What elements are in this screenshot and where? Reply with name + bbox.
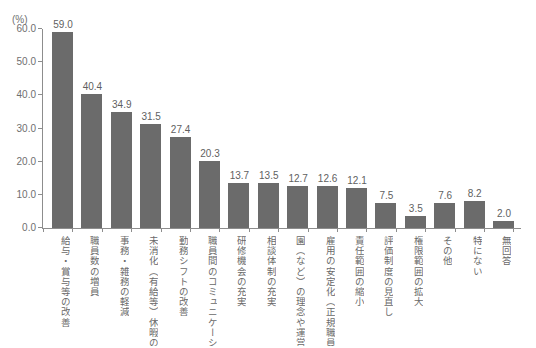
bar bbox=[81, 94, 102, 228]
x-axis-tick-mark bbox=[190, 228, 191, 232]
bar-group: 13.5 bbox=[254, 29, 284, 228]
category-label: 事務・雑務の軽減 bbox=[115, 236, 129, 346]
x-axis-tick-mark bbox=[131, 228, 132, 232]
category-label: 未消化（有給等）休暇の改善 bbox=[144, 236, 158, 346]
bar bbox=[464, 201, 485, 228]
bar bbox=[228, 183, 249, 228]
y-axis-tick-mark bbox=[38, 227, 42, 228]
bar bbox=[493, 221, 514, 228]
bar bbox=[346, 188, 367, 228]
bar-group: 27.4 bbox=[166, 29, 196, 228]
x-axis-tick-mark bbox=[484, 228, 485, 232]
bar bbox=[170, 137, 191, 228]
x-axis-tick-mark bbox=[455, 228, 456, 232]
x-axis-tick-mark bbox=[43, 228, 44, 232]
x-axis-tick-mark bbox=[366, 228, 367, 232]
bar bbox=[375, 203, 396, 228]
y-axis-tick-label: 30.0 bbox=[17, 123, 36, 135]
bar-group: 8.2 bbox=[460, 29, 490, 228]
bar-group: 34.9 bbox=[107, 29, 137, 228]
y-axis-tick-mark bbox=[38, 194, 42, 195]
category-label: 無回答 bbox=[497, 236, 511, 346]
y-axis-tick: 0.0 bbox=[0, 222, 42, 234]
y-axis-tick-label: 10.0 bbox=[17, 189, 36, 201]
x-axis-line bbox=[42, 228, 521, 229]
bar bbox=[287, 186, 308, 228]
bar-group: 40.4 bbox=[77, 29, 107, 228]
y-axis-tick: 30.0 bbox=[0, 123, 42, 135]
y-axis-tick-mark bbox=[38, 128, 42, 129]
x-axis-tick-mark bbox=[513, 228, 514, 232]
x-axis-tick-mark bbox=[308, 228, 309, 232]
plot-area: 59.040.434.931.527.420.313.713.512.712.6… bbox=[43, 29, 521, 228]
bar bbox=[434, 203, 455, 228]
bar-value-label: 2.0 bbox=[483, 208, 525, 219]
y-axis-tick-mark bbox=[38, 61, 42, 62]
x-axis-tick-mark bbox=[219, 228, 220, 232]
bar-group: 13.7 bbox=[224, 29, 254, 228]
category-label: 職員間のコミュニケーション bbox=[203, 236, 217, 346]
x-axis-tick-mark bbox=[102, 228, 103, 232]
category-label: 給与・賞与等の改善 bbox=[56, 236, 70, 346]
y-axis-tick-mark bbox=[38, 161, 42, 162]
y-axis-tick: 60.0 bbox=[0, 23, 42, 35]
x-axis-tick-mark bbox=[161, 228, 162, 232]
bar-group: 59.0 bbox=[48, 29, 78, 228]
category-label: 責任範囲の縮小 bbox=[350, 236, 364, 346]
category-label: 研修機会の充実 bbox=[232, 236, 246, 346]
x-axis-tick-mark bbox=[278, 228, 279, 232]
bar bbox=[111, 112, 132, 228]
y-axis-tick: 50.0 bbox=[0, 56, 42, 68]
bar-chart: (%) 60.050.040.030.020.010.00.0 59.040.4… bbox=[0, 0, 536, 348]
category-label: 権限範囲の拡大 bbox=[409, 236, 423, 346]
bar-group: 12.6 bbox=[313, 29, 343, 228]
y-axis-tick-label: 40.0 bbox=[17, 89, 36, 101]
y-axis-tick-label: 20.0 bbox=[17, 156, 36, 168]
y-axis-tick: 10.0 bbox=[0, 189, 42, 201]
bar-group: 12.7 bbox=[283, 29, 313, 228]
bar bbox=[52, 32, 73, 228]
x-axis-tick-mark bbox=[337, 228, 338, 232]
bar bbox=[405, 216, 426, 228]
bar bbox=[199, 161, 220, 228]
bar bbox=[140, 124, 161, 228]
category-label: 職員数の増員 bbox=[85, 236, 99, 346]
x-axis-tick-mark bbox=[425, 228, 426, 232]
category-label: 雇用の安定化（正規職員登用） bbox=[321, 236, 335, 346]
x-axis-tick-mark bbox=[396, 228, 397, 232]
y-axis-tick: 40.0 bbox=[0, 89, 42, 101]
category-label: 勤務シフトの改善 bbox=[174, 236, 188, 346]
x-axis-tick-mark bbox=[72, 228, 73, 232]
y-axis-tick-label: 60.0 bbox=[17, 23, 36, 35]
category-label: 相談体制の充実 bbox=[262, 236, 276, 346]
x-axis-tick-mark bbox=[249, 228, 250, 232]
y-axis-tick: 20.0 bbox=[0, 156, 42, 168]
bar-group: 2.0 bbox=[489, 29, 519, 228]
category-label: 評価制度の見直し bbox=[379, 236, 393, 346]
bar-group: 20.3 bbox=[195, 29, 225, 228]
bar-group: 7.5 bbox=[371, 29, 401, 228]
bar bbox=[317, 186, 338, 228]
y-axis-tick-mark bbox=[38, 94, 42, 95]
y-axis-tick-label: 50.0 bbox=[17, 56, 36, 68]
y-axis-tick-label: 0.0 bbox=[22, 222, 36, 234]
category-label: 園（など）の理念や運営方針 bbox=[291, 236, 305, 346]
bar bbox=[258, 183, 279, 228]
category-label: その他 bbox=[438, 236, 452, 346]
cropped-title-sliver bbox=[6, 0, 526, 7]
category-label: 特にない bbox=[468, 236, 482, 346]
